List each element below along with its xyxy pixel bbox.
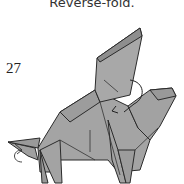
pig-body (8, 28, 176, 183)
origami-diagram (0, 0, 184, 184)
